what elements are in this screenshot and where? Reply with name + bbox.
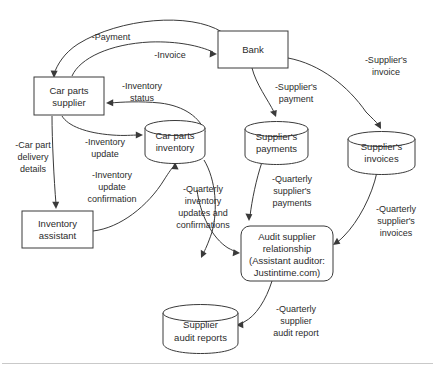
edge-label-sup-payment-line1: -Supplier's	[275, 82, 318, 92]
node-label-audit-line3: (Assistant auditor:	[249, 255, 325, 266]
edge-quarterly-suppliers-payments	[245, 162, 262, 221]
node-label-inventory-assistant-line1: Inventory	[38, 218, 77, 229]
edge-label-payment-line1: -Payment	[92, 32, 131, 42]
arrowhead-quarterly-inventory-into-audit	[233, 249, 240, 256]
node-supplier-audit-reports[interactable]: Supplier audit reports	[163, 305, 238, 354]
edge-label-inventory-update: -Inventory update	[85, 137, 126, 159]
edge-label-invoice-line1: -Invoice	[154, 50, 186, 60]
arrowhead-quarterly-suppliers-payments	[245, 214, 252, 221]
node-label-audit-line1: Audit supplier	[258, 231, 316, 242]
arrowhead-suppliers-invoice	[374, 122, 381, 129]
edge-label-invoice: -Invoice	[154, 50, 186, 60]
edge-label-confirm-line3: confirmation	[87, 194, 136, 204]
edge-car-part-delivery-details	[52, 116, 59, 209]
node-bank[interactable]: Bank	[218, 31, 288, 68]
arrowhead-suppliers-payment	[270, 110, 277, 117]
edge-label-q-pay-line1: -Quarterly	[272, 174, 313, 184]
edge-label-q-rep-line2: supplier	[280, 316, 312, 326]
node-label-supplier-audit-reports-line1: Supplier	[183, 319, 218, 330]
edge-invoice	[72, 42, 217, 76]
node-label-car-parts-supplier-line1: Car parts	[49, 85, 88, 96]
arrowhead-invoice	[210, 50, 217, 57]
node-label-audit-line2: relationship	[263, 243, 312, 254]
node-audit-supplier-relationship[interactable]: Audit supplier relationship (Assistant a…	[241, 226, 333, 281]
edge-suppliers-payment	[252, 68, 277, 117]
edge-label-inventory-update-confirmation: -Inventory update confirmation	[87, 170, 136, 204]
edge-quarterly-suppliers-invoices	[333, 172, 377, 245]
edge-label-q-rep-line3: audit report	[273, 328, 319, 338]
node-suppliers-invoices[interactable]: Supplier's invoices	[348, 132, 415, 175]
edge-label-q-inv-line2: inventory	[185, 196, 222, 206]
edge-label-sup-payment-line2: payment	[279, 94, 314, 104]
edge-inventory-update	[62, 116, 143, 138]
node-label-suppliers-invoices-line1: Supplier's	[361, 141, 403, 152]
node-label-inventory-assistant-line2: assistant	[39, 230, 77, 241]
edge-label-quarterly-inventory-updates: -Quarterly inventory updates and confirm…	[176, 184, 230, 230]
edge-label-q-pay-line2: supplier's	[273, 186, 311, 196]
node-car-parts-supplier[interactable]: Car parts supplier	[34, 77, 104, 115]
node-car-parts-inventory[interactable]: Car parts inventory	[145, 121, 205, 164]
node-label-suppliers-payments-line2: payments	[256, 143, 297, 154]
data-flow-diagram: Car parts supplier Bank Inventory assist…	[0, 0, 435, 372]
edge-label-inventory-update-line2: update	[91, 149, 119, 159]
node-inventory-assistant[interactable]: Inventory assistant	[22, 211, 93, 248]
edge-label-payment: -Payment	[92, 32, 131, 42]
edge-label-delivery-line3: details	[20, 164, 47, 174]
edge-label-quarterly-suppliers-invoices: -Quarterly supplier's invoices	[376, 204, 417, 238]
edge-label-q-inv-line4: confirmations	[176, 220, 230, 230]
node-label-supplier-audit-reports-line2: audit reports	[174, 332, 227, 343]
edge-label-q-inv2-line1: -Quarterly	[376, 204, 417, 214]
edge-label-confirm-line2: update	[98, 182, 126, 192]
edge-label-inventory-update-line1: -Inventory	[85, 137, 126, 147]
edge-label-suppliers-invoice: -Supplier's invoice	[365, 55, 408, 77]
edge-label-q-inv2-line2: supplier's	[377, 216, 415, 226]
edge-label-sup-invoice-line2: invoice	[372, 67, 400, 77]
arrowhead-inventory-status	[106, 99, 113, 106]
edge-label-q-pay-line3: payments	[272, 198, 312, 208]
edge-label-q-inv-line3: updates and	[178, 208, 228, 218]
edge-label-quarterly-supplier-audit-report: -Quarterly supplier audit report	[273, 304, 319, 338]
node-label-suppliers-payments-line1: Supplier's	[256, 131, 298, 142]
edge-label-suppliers-payment: -Supplier's payment	[275, 82, 318, 104]
arrowhead-inventory-update	[136, 131, 143, 138]
edge-label-confirm-line1: -Inventory	[92, 170, 133, 180]
arrowhead-car-part-delivery-details	[52, 202, 59, 209]
node-label-car-parts-supplier-line2: supplier	[52, 97, 85, 108]
node-suppliers-payments[interactable]: Supplier's payments	[245, 122, 308, 165]
edge-label-inventory-status: -Inventory status	[122, 81, 163, 103]
node-label-audit-line4: Justintime.com)	[254, 267, 321, 278]
edge-label-q-inv-line1: -Quarterly	[183, 184, 224, 194]
edge-label-quarterly-suppliers-payments: -Quarterly supplier's payments	[272, 174, 313, 208]
edge-label-inventory-status-line2: status	[130, 93, 155, 103]
node-label-car-parts-inventory-line2: inventory	[156, 142, 195, 153]
node-label-suppliers-invoices-line2: invoices	[364, 153, 399, 164]
edge-label-delivery-line2: delivery	[17, 152, 49, 162]
node-label-car-parts-inventory-line1: Car parts	[155, 130, 194, 141]
edge-label-car-part-delivery-details: -Car part delivery details	[15, 140, 51, 174]
diagram-canvas: Car parts supplier Bank Inventory assist…	[0, 0, 435, 372]
edge-label-inventory-status-line1: -Inventory	[122, 81, 163, 91]
arrowhead-quarterly-inventory-updates	[201, 250, 207, 258]
edge-label-sup-invoice-line1: -Supplier's	[365, 55, 408, 65]
node-label-bank: Bank	[242, 44, 264, 55]
edge-quarterly-supplier-audit-report	[236, 281, 272, 328]
edge-label-delivery-line1: -Car part	[15, 140, 51, 150]
arrowhead-quarterly-suppliers-invoices	[333, 238, 340, 245]
edge-label-q-rep-line1: -Quarterly	[276, 304, 317, 314]
edge-label-q-inv2-line3: invoices	[380, 228, 413, 238]
